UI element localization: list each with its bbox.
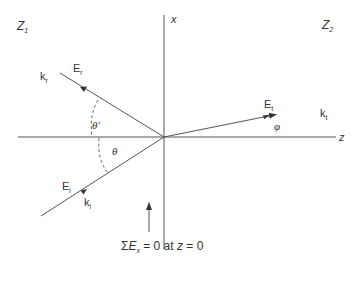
incident-angle-arc bbox=[99, 138, 108, 173]
region-z1-label: Z1 bbox=[16, 19, 28, 34]
transmitted-k-label: kt bbox=[320, 107, 328, 121]
transmitted-ray bbox=[164, 115, 276, 138]
incident-ray bbox=[41, 137, 164, 216]
incident-e-label: Ei bbox=[62, 180, 71, 194]
reflected-ray bbox=[60, 73, 164, 137]
transmitted-mid-arrow-icon bbox=[263, 114, 271, 119]
reflected-k-label: kr bbox=[40, 70, 49, 84]
region-z2-label: Z2 bbox=[321, 18, 333, 33]
reflected-e-label: Er bbox=[73, 62, 83, 76]
boundary-condition-label: ΣEx = 0 at z = 0 bbox=[121, 239, 204, 254]
incident-angle-label: θ bbox=[112, 145, 118, 157]
transmitted-e-label: Et bbox=[264, 98, 273, 112]
transmitted-angle-label: φ bbox=[274, 120, 280, 132]
incident-k-label: ki bbox=[84, 196, 92, 210]
x-axis-label: x bbox=[170, 13, 177, 25]
wave-boundary-diagram: Z1 Z2 x z kr Er Ei ki Et kt θ′ θ φ ΣEx =… bbox=[0, 0, 358, 294]
z-axis-label: z bbox=[338, 131, 345, 143]
reflected-angle-label: θ′ bbox=[92, 119, 100, 131]
